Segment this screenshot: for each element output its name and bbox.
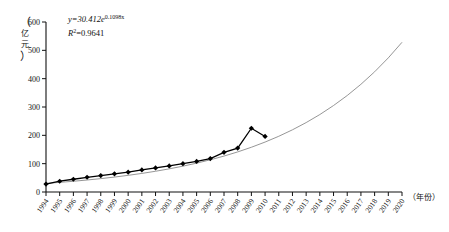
x-tick-label-1997: 1997	[76, 197, 92, 215]
x-tick-label-2010: 2010	[254, 197, 270, 215]
x-tick-label-2009: 2009	[240, 197, 256, 215]
x-tick-label-2012: 2012	[281, 197, 297, 215]
data-point-1997	[84, 175, 89, 180]
x-tick-label-1994: 1994	[35, 197, 51, 215]
y-tick-label-300: 300	[28, 103, 40, 112]
x-tick-label-2007: 2007	[213, 197, 229, 215]
y-tick-label-400: 400	[28, 75, 40, 84]
x-tick-label-1999: 1999	[103, 197, 119, 215]
y-axis-label: （ 亿 元 ）	[20, 16, 31, 62]
x-axis-tick-labels: 1994199519961997199819992000200120022003…	[35, 197, 407, 215]
equation-exponent: 0.1098x	[105, 14, 125, 20]
x-tick-label-2011: 2011	[268, 197, 284, 214]
data-point-2000	[126, 170, 131, 175]
x-tick-label-2005: 2005	[185, 197, 201, 215]
data-point-1998	[98, 173, 103, 178]
data-point-2002	[153, 165, 158, 170]
regression-annotation: y=30.412e0.1098x R2=0.9641	[67, 14, 124, 38]
x-tick-label-2017: 2017	[350, 197, 366, 215]
y-tick-label-100: 100	[28, 160, 40, 169]
axes	[46, 22, 402, 192]
exponential-trend-curve	[46, 42, 402, 183]
x-tick-label-2016: 2016	[336, 197, 352, 215]
x-tick-label-2013: 2013	[295, 197, 311, 215]
y-label-char-1: 元	[21, 40, 29, 49]
equation-base: y=30.412e	[67, 14, 105, 24]
y-axis-ticks	[42, 22, 46, 192]
x-tick-label-2014: 2014	[309, 197, 325, 215]
data-point-2001	[139, 167, 144, 172]
data-point-2003	[167, 163, 172, 168]
x-tick-label-2018: 2018	[363, 197, 379, 215]
x-tick-label-2015: 2015	[322, 197, 338, 215]
y-axis-tick-labels: 0100200300400500600	[28, 18, 40, 197]
exponential-growth-chart: 0100200300400500600 19941995199619971998…	[0, 0, 449, 232]
x-tick-label-2004: 2004	[172, 197, 188, 215]
r-squared-annotation: R2=0.9641	[67, 28, 104, 38]
x-tick-label-2002: 2002	[144, 197, 160, 215]
x-tick-label-2020: 2020	[391, 197, 407, 215]
x-tick-label-2008: 2008	[226, 197, 242, 215]
y-tick-label-0: 0	[36, 188, 40, 197]
observed-data-line	[46, 128, 265, 184]
x-tick-label-2003: 2003	[158, 197, 174, 215]
data-point-1994	[43, 181, 48, 186]
y-label-paren-open: （	[20, 16, 31, 28]
x-axis-label: （年份）	[408, 192, 440, 202]
x-axis-ticks	[46, 192, 402, 196]
x-tick-label-2000: 2000	[117, 197, 133, 215]
chart-canvas: 0100200300400500600 19941995199619971998…	[0, 0, 449, 232]
x-tick-label-1998: 1998	[89, 197, 105, 215]
x-tick-label-2001: 2001	[131, 197, 147, 215]
y-label-paren-close: ）	[20, 50, 31, 62]
x-tick-label-2019: 2019	[377, 197, 393, 215]
regression-equation: y=30.412e0.1098x	[67, 14, 124, 24]
data-point-2007	[221, 150, 226, 155]
y-tick-label-200: 200	[28, 131, 40, 140]
x-tick-label-1995: 1995	[48, 197, 64, 215]
r-squared-value: =0.9641	[76, 28, 104, 38]
observed-data-markers	[43, 126, 267, 187]
data-point-1999	[112, 171, 117, 176]
x-tick-label-2006: 2006	[199, 197, 215, 215]
x-tick-label-1996: 1996	[62, 197, 78, 215]
data-point-1995	[57, 179, 62, 184]
y-label-char-0: 亿	[21, 28, 29, 38]
